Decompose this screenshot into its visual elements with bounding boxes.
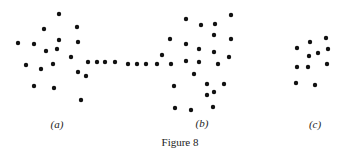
dot [197,47,201,51]
dot [39,67,43,71]
dot [52,86,56,90]
dot [211,105,215,109]
dot [69,55,73,59]
dot [184,59,188,63]
dot [306,65,310,69]
dot [212,33,216,37]
dot [57,12,61,16]
dot [57,38,61,42]
dot [213,22,217,26]
dot [229,13,233,17]
dot [192,72,196,76]
dot [155,62,159,66]
dot [307,54,311,58]
dot [84,74,88,78]
dot [199,23,203,27]
panel-b-dots [126,13,233,112]
dot [168,37,172,41]
dot [325,62,329,66]
dot [42,27,46,31]
dot [24,63,28,67]
dot [295,65,299,69]
dot [32,84,36,88]
dot [135,62,139,66]
dot [144,62,148,66]
dot [55,47,59,51]
dot [32,42,36,46]
dot [95,60,99,64]
dot [205,93,209,97]
dot [184,17,188,21]
panel-label-c: (c) [309,118,321,130]
dot [16,41,20,45]
dot [126,62,130,66]
dot [227,55,231,59]
dot [44,49,48,53]
dot [313,83,317,87]
dot [212,50,216,54]
dot [173,106,177,110]
figure-caption: Figure 8 [162,136,199,148]
dot [79,98,83,102]
panel-label-b: (b) [196,117,209,129]
dot [76,40,80,44]
dot [189,108,193,112]
dot [76,70,80,74]
figure-plot [0,0,345,154]
dot [294,81,298,85]
dot [229,37,233,41]
dot [86,60,90,64]
dot [184,42,188,46]
dot [308,40,312,44]
panel-a-dots [16,12,117,102]
dot [326,47,330,51]
dot [222,82,226,86]
dot [324,36,328,40]
dot [316,51,320,55]
dot [172,84,176,88]
dot [51,62,55,66]
dot [205,82,209,86]
panel-c-dots [294,36,330,87]
dot [216,62,220,66]
dot [160,53,164,57]
dot [197,60,201,64]
dot [113,60,117,64]
dot [212,90,216,94]
dot [103,60,107,64]
dot [295,46,299,50]
panel-label-a: (a) [51,118,64,130]
dot [169,62,173,66]
dot [75,25,79,29]
